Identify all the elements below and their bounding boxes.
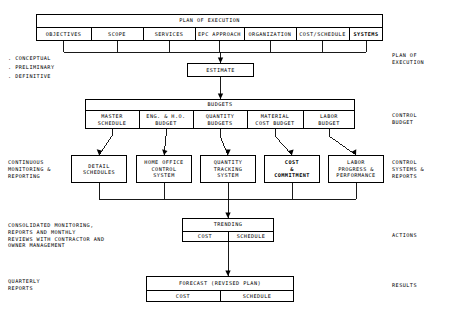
plan-of-execution-title: PLAN OF EXECUTION — [36, 14, 383, 27]
budget-col-material-cost-budget[interactable]: MATERIAL COST BUDGET — [247, 110, 303, 129]
forecast-title: FORECAST (REVISED PLAN) — [146, 276, 294, 290]
control-box-detail-schedules-label: DETAIL SCHEDULES — [71, 155, 127, 183]
flowchart-canvas: PLAN OF EXECUTION OBJECTIVES SCOPE SERVI… — [0, 0, 450, 328]
phase-item-preliminary: . PRELIMINARY — [8, 64, 54, 71]
right-label-plan-of-execution: PLAN OF EXECUTION — [392, 52, 424, 66]
right-label-control-budget: CONTROL BUDGET — [392, 112, 417, 126]
right-label-results: RESULTS — [392, 282, 417, 289]
left-label-continuous-monitoring: CONTINUOUS MONITORING & REPORTING — [8, 159, 51, 179]
control-box-labor-progress-performance-label: LABOR PROGRESS & PERFORMANCE — [328, 155, 384, 183]
right-label-control-systems-reports: CONTROL SYSTEMS & REPORTS — [392, 159, 424, 179]
control-box-home-office-control-system-label: HOME OFFICE CONTROL SYSTEM — [136, 155, 192, 183]
header-col-services[interactable]: SERVICES — [143, 27, 195, 41]
left-label-quarterly-reports: QUARTERLY REPORTS — [8, 278, 40, 292]
trending-title: TRENDING — [182, 218, 274, 231]
header-col-scope[interactable]: SCOPE — [91, 27, 143, 41]
budget-col-master-schedule[interactable]: MASTER SCHEDULE — [85, 110, 139, 129]
control-box-quantity-tracking-system-label: QUANTITY TRACKING SYSTEM — [200, 155, 256, 183]
budget-col-eng-ho-budget[interactable]: ENG. & H.O. BUDGET — [139, 110, 193, 129]
budget-col-labor-budget[interactable]: LABOR BUDGET — [303, 110, 355, 129]
forecast-sub-schedule[interactable]: SCHEDULE — [220, 290, 294, 302]
trending-sub-schedule[interactable]: SCHEDULE — [228, 231, 274, 242]
budget-col-quantity-budgets[interactable]: QUANTITY BUDGETS — [193, 110, 247, 129]
header-col-systems[interactable]: SYSTEMS — [349, 27, 383, 41]
forecast-sub-cost[interactable]: COST — [146, 290, 220, 302]
header-col-epc-approach[interactable]: EPC APPROACH — [195, 27, 244, 41]
header-col-organization[interactable]: ORGANIZATION — [244, 27, 296, 41]
header-col-objectives[interactable]: OBJECTIVES — [36, 27, 91, 41]
right-label-actions: ACTIONS — [392, 232, 417, 239]
estimate-label: ESTIMATE — [187, 63, 254, 77]
budgets-title: BUDGETS — [85, 99, 355, 110]
left-label-consolidated-monitoring: CONSOLIDATED MONITORING, REPORTS AND MON… — [8, 222, 104, 249]
phase-item-definitive: . DEFINITIVE — [8, 73, 51, 80]
control-box-cost-commitment-label: COST & COMMITMENT — [264, 155, 320, 183]
trending-sub-cost[interactable]: COST — [182, 231, 228, 242]
header-col-cost-schedule[interactable]: COST/SCHEDULE — [296, 27, 349, 41]
phase-item-conceptual: . CONCEPTUAL — [8, 55, 51, 62]
